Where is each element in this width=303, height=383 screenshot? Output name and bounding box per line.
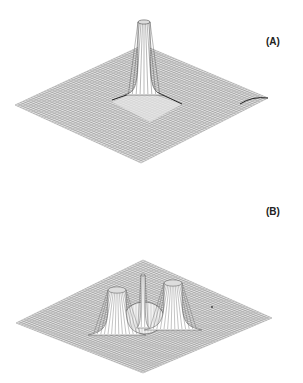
panel-b: (B) [0,0,303,383]
surface-plot-b [0,0,303,383]
panel-label-b: (B) [266,206,280,217]
